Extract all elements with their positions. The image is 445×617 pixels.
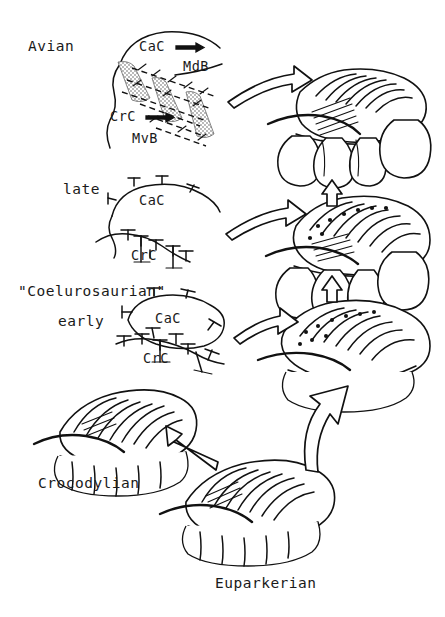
early-schematic: [116, 288, 224, 374]
anatomy-label-late-crc: CrC: [131, 247, 157, 263]
anatomy-label-late-cac: CaC: [139, 192, 165, 208]
diagram-artwork: [0, 0, 445, 617]
euparkerian-lung: [160, 460, 335, 566]
late-schematic: [96, 176, 220, 268]
diagram-canvas: Avian CaC MdB CrC MvB late CaC CrC "Coel…: [0, 0, 445, 617]
anatomy-label-early-cac: CaC: [155, 310, 181, 326]
stage-label-coelurosaurian: "Coelurosaurian": [18, 283, 166, 299]
cac-flow-arrow: [176, 43, 204, 52]
anatomy-label-early-crc: CrC: [143, 350, 169, 366]
stage-label-crocodylian: Crocodylian: [38, 475, 140, 491]
stage-label-early: early: [58, 313, 104, 329]
stage-label-late: late: [63, 181, 100, 197]
stage-label-avian: Avian: [28, 38, 74, 54]
anatomy-label-avian-cac: CaC: [139, 38, 165, 54]
anatomy-label-avian-crc: CrC: [110, 108, 136, 124]
anatomy-label-avian-mvb: MvB: [132, 130, 158, 146]
anatomy-label-avian-mdb: MdB: [183, 58, 209, 74]
stage-label-euparkerian: Euparkerian: [215, 575, 317, 591]
